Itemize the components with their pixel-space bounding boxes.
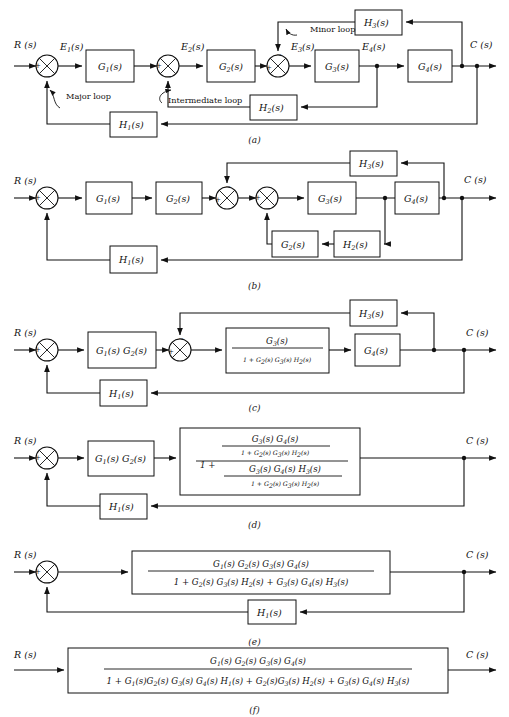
sign-minus-c2: − xyxy=(178,335,184,343)
signal-label-e4: E4(s) xyxy=(361,41,386,54)
sign-minus-d1: − xyxy=(45,465,51,473)
signal-label-c-c: C (s) xyxy=(466,327,489,338)
sign-minus-c1: − xyxy=(45,357,51,365)
signal-label-c-f: C (s) xyxy=(466,649,489,660)
block-fraction-c xyxy=(226,328,329,373)
panel-f: R (s) G1(s) G2(s) G3(s) G4(s) 1 + G1(s)G… xyxy=(0,640,509,710)
sign-plus-e1: + xyxy=(35,568,41,576)
annotation-intermediate-loop: Intermediate loop xyxy=(168,95,242,105)
signal-label-e1: E1(s) xyxy=(59,41,84,54)
signal-label-c-b: C (s) xyxy=(464,174,487,185)
panel-c: R (s) + − G1(s) G2(s) − + G3(s) 1 + G2(s… xyxy=(0,292,509,407)
annotation-major-loop: Major loop xyxy=(66,91,111,101)
fraction-f-denominator: 1 + G1(s)G2(s) G3(s) G4(s) H1(s) + G2(s)… xyxy=(107,676,410,687)
sign-plus-c1: + xyxy=(35,346,41,354)
sign-minus-e1: − xyxy=(45,579,51,587)
sign-minus-a2: − xyxy=(166,73,172,81)
signal-label-e2: E2(s) xyxy=(180,41,205,54)
panel-caption-b: (b) xyxy=(248,281,261,291)
sign-plus-b1: + xyxy=(35,194,41,202)
sign-plus-c2: + xyxy=(168,348,174,356)
sign-minus-a3: − xyxy=(276,51,282,59)
panel-b: R (s) + − G1(s) G2(s) − + + − G3(s) G4(s… xyxy=(0,143,509,288)
signal-label-r-f: R (s) xyxy=(13,649,37,660)
sign-minus-a1: − xyxy=(45,73,51,81)
sign-plus-a2: + xyxy=(156,62,162,70)
signal-label-c-d: C (s) xyxy=(466,435,489,446)
panel-caption-f: (f) xyxy=(249,705,259,715)
signal-label-r-b: R (s) xyxy=(13,175,37,186)
block-fraction-f xyxy=(68,648,448,693)
signal-label-c-e: C (s) xyxy=(466,549,489,560)
signal-label-e3: E3(s) xyxy=(290,41,315,54)
signal-label-r-c: R (s) xyxy=(13,327,37,338)
sign-plus-a3: + xyxy=(266,64,272,72)
sign-plus-a1: + xyxy=(35,62,41,70)
signal-label-r-e: R (s) xyxy=(13,549,37,560)
sign-plus-b2: + xyxy=(215,196,221,204)
panel-d: R (s) + − G1(s) G2(s) G3(s) G4(s) 1 + G2… xyxy=(0,410,509,520)
block-fraction-e xyxy=(132,551,390,594)
sign-plus-d1: + xyxy=(35,454,41,462)
sign-minus-b3: − xyxy=(265,205,271,213)
panel-e: R (s) + − G1(s) G2(s) G3(s) G4(s) 1 + G2… xyxy=(0,522,509,622)
signal-label-r-d: R (s) xyxy=(13,435,37,446)
fraction-d-den-lead: 1 + xyxy=(200,460,215,470)
annotation-minor-loop: Minor loop xyxy=(310,24,355,34)
sign-minus-b1: − xyxy=(45,205,51,213)
sign-minus-b2: − xyxy=(225,183,231,191)
signal-label-c: C (s) xyxy=(470,39,493,50)
panel-a: R (s) + − E1(s) G1(s) + − E2(s) G2(s) − … xyxy=(0,0,509,140)
fraction-c-numerator: G3(s) xyxy=(266,336,288,347)
fraction-d-den-num: G3(s) G4(s) H3(s) xyxy=(249,464,321,475)
signal-label-r: R (s) xyxy=(13,39,37,50)
sign-plus-b3: + xyxy=(255,194,261,202)
